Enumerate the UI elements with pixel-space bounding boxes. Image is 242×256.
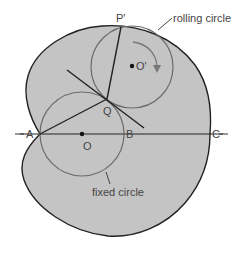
label-O: O [83,140,92,152]
center-O-dot [80,132,84,136]
label-rolling-circle: rolling circle [173,12,231,24]
cardioid-shape [22,26,211,237]
label-O-prime: O' [136,60,147,72]
label-fixed-circle: fixed circle [92,186,144,198]
cardioid-diagram: P' O' Q A O B C rolling circle fixed cir… [0,0,242,256]
label-B: B [126,128,133,140]
label-P-prime: P' [116,12,125,24]
rolling-circle-callout [158,18,172,30]
label-A: A [26,128,34,140]
center-O-prime-dot [130,64,134,68]
label-Q: Q [103,105,112,117]
label-C: C [212,128,220,140]
